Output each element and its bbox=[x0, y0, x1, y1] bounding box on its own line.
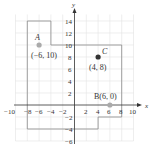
point-a bbox=[37, 42, 42, 47]
point-b bbox=[107, 102, 112, 107]
svg-text:14: 14 bbox=[65, 18, 73, 26]
point-b-label: B(6, 0) bbox=[94, 92, 117, 101]
svg-text:8: 8 bbox=[68, 54, 72, 62]
svg-text:−8: −8 bbox=[24, 108, 32, 116]
point-c-name: C bbox=[102, 47, 108, 56]
svg-text:−4: −4 bbox=[47, 108, 55, 116]
svg-text:4: 4 bbox=[96, 108, 100, 116]
point-c bbox=[96, 54, 101, 59]
svg-text:−6: −6 bbox=[65, 138, 73, 146]
svg-text:8: 8 bbox=[119, 108, 123, 116]
y-tick-labels: 14 12 10 8 6 4 2 −2 −4 −6 bbox=[65, 18, 73, 146]
svg-text:−6: −6 bbox=[35, 108, 43, 116]
point-c-coords: (4, 8) bbox=[89, 63, 107, 72]
svg-text:−2: −2 bbox=[65, 114, 73, 122]
y-axis-label: y bbox=[71, 1, 76, 9]
svg-text:−10: −10 bbox=[4, 108, 15, 116]
coordinate-plane: x y −10 −8 −6 −4 −2 2 4 6 8 10 14 12 10 … bbox=[0, 0, 152, 149]
svg-text:2: 2 bbox=[84, 108, 88, 116]
x-axis-label: x bbox=[144, 102, 149, 110]
svg-text:10: 10 bbox=[65, 42, 73, 50]
svg-text:−4: −4 bbox=[65, 126, 73, 134]
x-axis-arrow-icon bbox=[137, 103, 142, 107]
point-a-name: A bbox=[34, 33, 40, 42]
point-a-coords: (−6, 10) bbox=[31, 51, 57, 60]
svg-text:6: 6 bbox=[107, 108, 111, 116]
svg-text:10: 10 bbox=[129, 108, 137, 116]
svg-text:4: 4 bbox=[68, 78, 72, 86]
svg-text:6: 6 bbox=[68, 66, 72, 74]
svg-text:12: 12 bbox=[65, 30, 73, 38]
svg-text:2: 2 bbox=[68, 90, 72, 98]
